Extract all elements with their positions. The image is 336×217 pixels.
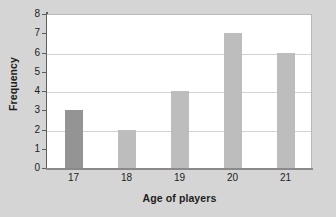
bar-chart-figure: Frequency 012345678 1718192021 Age of pl… [0,0,336,217]
y-axis-tick-label: 3 [22,105,40,115]
bar-17 [65,110,83,168]
y-axis-tick-label: 8 [22,9,40,19]
bar-19 [171,91,189,168]
bar-21 [277,53,295,169]
plot-area [47,14,312,168]
x-axis-tick-labels: 1718192021 [47,173,312,187]
bars-layer [47,15,311,168]
y-axis-title-label: Frequency [7,57,19,111]
x-axis-tick-label: 19 [160,173,200,183]
y-axis-tick-label: 4 [22,86,40,96]
x-axis-tick-label: 21 [266,173,306,183]
y-axis-tick-label: 6 [22,48,40,58]
y-axis-title: Frequency [4,0,22,168]
x-axis-tick-label: 18 [107,173,147,183]
bar-20 [224,33,242,168]
y-axis-tick-label: 5 [22,67,40,77]
x-axis-tick-label: 20 [213,173,253,183]
x-axis-title: Age of players [47,192,312,204]
bar-18 [118,130,136,169]
x-axis-line [46,168,313,170]
x-axis-tick-label: 17 [54,173,94,183]
y-axis-tick-label: 2 [22,125,40,135]
y-axis-tick-label: 7 [22,28,40,38]
y-axis-tick-label: 0 [22,163,40,173]
y-axis-tick-labels: 012345678 [22,8,40,168]
y-axis-tick-label: 1 [22,144,40,154]
